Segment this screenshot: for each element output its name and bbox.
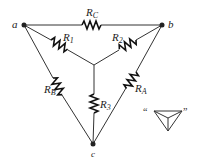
- label-b: b: [168, 18, 174, 30]
- svg-text:”: ”: [183, 106, 187, 117]
- label-r1: R1: [62, 31, 74, 45]
- svg-text:“: “: [143, 106, 148, 117]
- resistor-rc-branch: [24, 21, 162, 29]
- node-c: [91, 142, 96, 147]
- delta-wye-symbol: “ ”: [143, 106, 187, 131]
- label-a: a: [12, 18, 18, 30]
- resistor-ra-branch: [93, 25, 162, 144]
- label-rc: RC: [85, 6, 99, 20]
- label-r3: R3: [99, 98, 111, 112]
- resistor-r3-branch: [90, 65, 98, 144]
- node-a: [22, 23, 27, 28]
- label-c: c: [91, 149, 95, 159]
- label-rb: RB: [43, 83, 56, 97]
- label-ra: RA: [134, 82, 147, 96]
- resistor-rb-branch: [24, 25, 93, 144]
- node-b: [160, 23, 165, 28]
- label-r2: R2: [111, 31, 123, 45]
- circuit-diagram: a b c RC R1 R2 RB RA R3 “ ”: [0, 0, 201, 168]
- resistor-r2-branch: [94, 25, 162, 65]
